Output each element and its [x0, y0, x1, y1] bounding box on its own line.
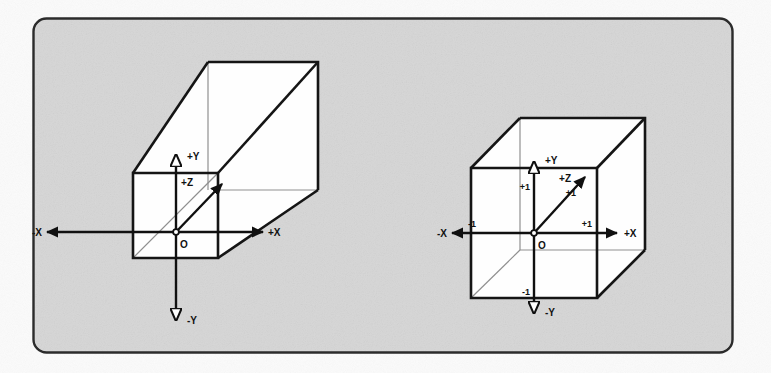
frustum-label-y-positive: +Y: [187, 151, 200, 162]
cube-label-x-positive: +X: [624, 228, 637, 239]
cube-label-origin: O: [538, 240, 546, 251]
frustum-origin-marker: [173, 229, 179, 235]
cube-label-y-negative: -Y: [545, 307, 555, 318]
cube-label-x-negative: -X: [437, 228, 447, 239]
cube-tick-z-positive: +1: [566, 188, 576, 198]
coordinate-system-figure: +Y -Y +X -X +Z O: [0, 0, 771, 373]
frustum-label-y-negative: -Y: [187, 315, 197, 326]
cube-tick-y-positive: +1: [520, 182, 530, 192]
cube-origin-marker: [531, 230, 537, 236]
cube-tick-x-positive: +1: [582, 219, 592, 229]
cube-label-y-positive: +Y: [545, 155, 558, 166]
figure-root: +Y -Y +X -X +Z O: [0, 0, 771, 373]
cube-label-z-positive: +Z: [559, 173, 571, 184]
cube-tick-x-negative: -1: [468, 219, 476, 229]
cube-tick-y-negative: -1: [522, 287, 530, 297]
frustum-label-origin: O: [180, 239, 188, 250]
frustum-label-x-positive: +X: [268, 227, 281, 238]
frustum-label-z-positive: +Z: [181, 177, 193, 188]
frustum-label-x-negative: -X: [32, 227, 42, 238]
